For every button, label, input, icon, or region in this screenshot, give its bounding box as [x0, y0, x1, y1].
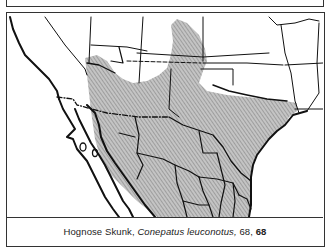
range-map-figure: Hognose Skunk, Conepatus leuconotus, 68,…	[6, 12, 325, 247]
common-name: Hognose Skunk,	[64, 226, 135, 237]
plate-reference: 68	[256, 226, 267, 237]
range-map	[7, 13, 323, 218]
map-caption: Hognose Skunk, Conepatus leuconotus, 68,…	[7, 218, 323, 245]
previous-figure-frame	[6, 0, 324, 7]
page-reference: 68,	[239, 226, 253, 237]
scientific-name: Conepatus leuconotus,	[137, 226, 236, 237]
